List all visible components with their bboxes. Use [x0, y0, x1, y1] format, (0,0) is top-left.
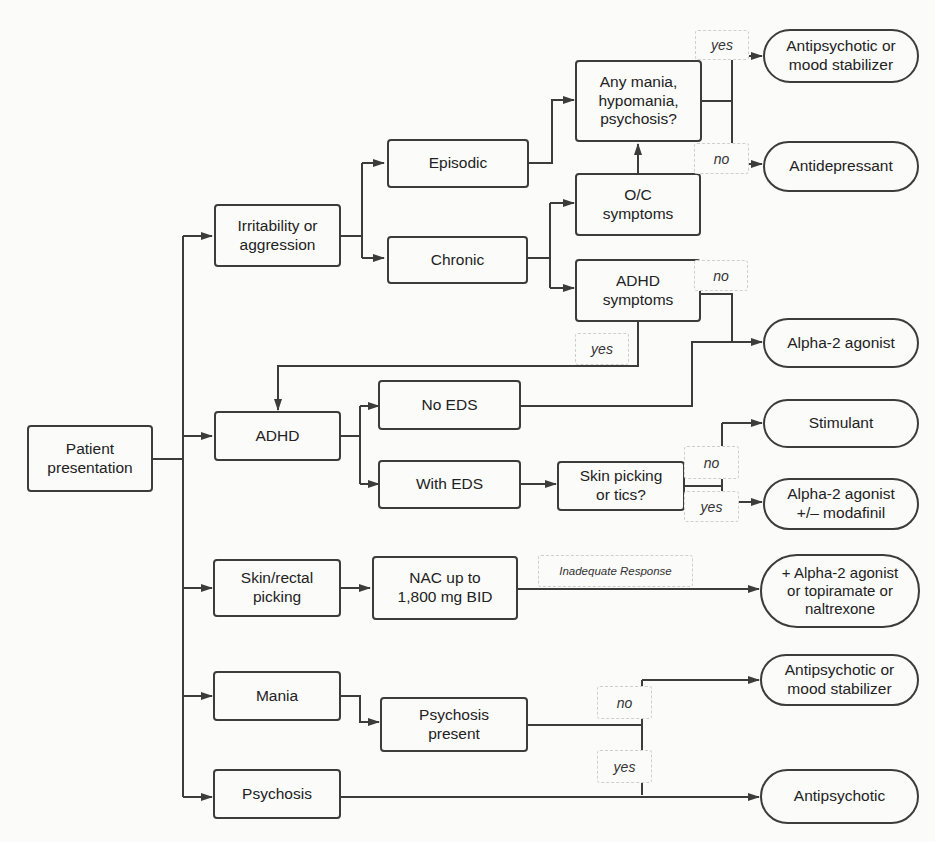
outcome-alpha2-topiramate-naltrexone: + Alpha-2 agonist or topiramate or naltr… [760, 554, 920, 628]
edge-label-tics-yes: yes [684, 491, 739, 522]
node-label: Psychosis [242, 785, 312, 804]
outcome-antipsychotic-or-mood-stabilizer-1: Antipsychotic or mood stabilizer [763, 29, 919, 83]
node-label: With EDS [416, 475, 483, 494]
edge-label-mania-yes: yes [695, 30, 749, 60]
node-adhd: ADHD [214, 411, 341, 461]
node-skin-rectal-picking: Skin/rectal picking [213, 559, 341, 617]
node-label: Any mania, hypomania, psychosis? [598, 73, 678, 129]
node-with-eds: With EDS [378, 460, 521, 509]
node-label: O/C symptoms [603, 186, 674, 223]
outcome-label: Stimulant [809, 414, 874, 433]
outcome-stimulant: Stimulant [763, 399, 919, 448]
node-mania: Mania [213, 671, 341, 721]
node-chronic: Chronic [387, 236, 528, 284]
node-psychosis: Psychosis [213, 769, 341, 819]
edge-label-adhd-yes: yes [575, 333, 629, 365]
node-oc-symptoms: O/C symptoms [575, 173, 701, 236]
outcome-antipsychotic-or-mood-stabilizer-2: Antipsychotic or mood stabilizer [760, 654, 919, 706]
outcome-label: Alpha-2 agonist +/– modafinil [787, 485, 895, 522]
edge-label-inadequate-response: Inadequate Response [538, 555, 693, 587]
node-label: Patient presentation [47, 440, 132, 477]
outcome-antipsychotic: Antipsychotic [760, 769, 919, 824]
node-irritability-aggression: Irritability or aggression [214, 204, 341, 267]
outcome-alpha2-modafinil: Alpha-2 agonist +/– modafinil [763, 478, 919, 530]
edge-label-mania-no: no [694, 143, 749, 174]
node-label: ADHD symptoms [603, 272, 674, 309]
edge-label-psychosis-yes: yes [597, 750, 652, 783]
node-label: Episodic [429, 154, 488, 173]
edge-label-tics-no: no [684, 446, 739, 479]
node-label: Chronic [431, 251, 484, 270]
node-patient-presentation: Patient presentation [27, 425, 153, 492]
node-label: ADHD [256, 427, 300, 446]
outcome-label: Antipsychotic or mood stabilizer [786, 37, 895, 74]
node-label: Psychosis present [419, 706, 489, 743]
outcome-label: Antidepressant [789, 157, 892, 176]
node-label: Mania [256, 687, 298, 706]
node-label: Skin/rectal picking [241, 569, 313, 606]
node-label: No EDS [422, 396, 478, 415]
node-nac-dose: NAC up to 1,800 mg BID [372, 556, 518, 620]
node-label: NAC up to 1,800 mg BID [398, 569, 493, 606]
edge-label-psychosis-no: no [597, 686, 652, 719]
outcome-label: Antipsychotic [794, 787, 885, 806]
node-label: Irritability or aggression [237, 217, 317, 254]
outcome-antidepressant: Antidepressant [763, 141, 919, 192]
node-psychosis-present: Psychosis present [380, 697, 528, 752]
node-skin-picking-tics-question: Skin picking or tics? [557, 461, 685, 511]
node-no-eds: No EDS [378, 380, 521, 430]
node-episodic: Episodic [387, 139, 529, 188]
node-label: Skin picking or tics? [580, 467, 663, 504]
outcome-label: Alpha-2 agonist [787, 334, 895, 353]
outcome-label: + Alpha-2 agonist or topiramate or naltr… [782, 564, 898, 618]
node-any-mania-question: Any mania, hypomania, psychosis? [575, 60, 702, 142]
node-adhd-symptoms: ADHD symptoms [575, 259, 701, 322]
outcome-alpha2-agonist: Alpha-2 agonist [763, 318, 919, 368]
outcome-label: Antipsychotic or mood stabilizer [785, 661, 894, 698]
edge-label-adhd-no: no [694, 260, 748, 291]
